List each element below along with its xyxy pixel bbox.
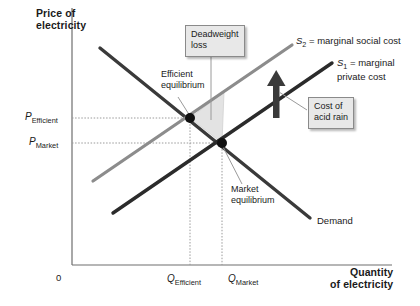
s1-text: = marginal <box>347 57 394 68</box>
leader-line-market-equilibrium <box>222 145 242 184</box>
price-tick-market-sub: Market <box>36 141 59 150</box>
economics-diagram-externality: Price of electricity Quantity of electri… <box>0 0 420 306</box>
callout-deadweight-loss: Deadweight loss <box>185 25 245 57</box>
market-equilibrium-line2: equilibrium <box>231 195 275 205</box>
callout-deadweight-loss-line2: loss <box>191 40 207 50</box>
s2-text: = marginal social cost <box>306 35 400 46</box>
origin-label: 0 <box>56 272 61 283</box>
quantity-tick-efficient-symbol: Q <box>167 273 175 284</box>
efficient-equilibrium-label: Efficient equilibrium <box>161 69 205 90</box>
price-tick-market: PMarket <box>29 136 58 151</box>
efficient-equilibrium-line1: Efficient <box>161 69 193 79</box>
market-equilibrium-line1: Market <box>231 184 259 194</box>
demand-curve-label: Demand <box>317 215 353 226</box>
quantity-tick-market-symbol: Q <box>228 273 236 284</box>
s2-curve-label: S2 = marginal social cost <box>296 35 401 49</box>
price-tick-efficient-sub: Efficient <box>32 116 58 125</box>
x-axis-title: Quantity of electricity <box>330 266 393 291</box>
leader-line-cost-of-acid-rain <box>279 92 307 110</box>
demand-curve <box>100 48 310 218</box>
callout-deadweight-loss-line1: Deadweight <box>191 29 239 39</box>
s1-curve-label: S1 = marginal private cost <box>337 57 395 83</box>
y-axis-title-line1: Price of <box>36 7 75 19</box>
x-axis-title-line1: Quantity <box>350 266 393 278</box>
price-tick-efficient: PEfficient <box>25 111 58 126</box>
quantity-tick-efficient-sub: Efficient <box>175 278 201 287</box>
efficient-equilibrium-line2: equilibrium <box>161 80 205 90</box>
efficient-equilibrium-point <box>185 113 195 123</box>
y-axis-title-line2: electricity <box>36 19 86 31</box>
callout-cost-of-acid-rain-line2: acid rain <box>314 112 348 122</box>
quantity-tick-market-sub: Market <box>236 278 259 287</box>
price-tick-efficient-symbol: P <box>25 111 32 122</box>
x-axis-title-line2: of electricity <box>330 278 393 290</box>
market-equilibrium-label: Market equilibrium <box>231 184 275 205</box>
market-equilibrium-point <box>217 138 227 148</box>
callout-cost-of-acid-rain-line1: Cost of <box>314 101 343 111</box>
callout-cost-of-acid-rain: Cost of acid rain <box>308 97 354 129</box>
quantity-tick-efficient: QEfficient <box>167 273 201 288</box>
s1-text-line2: private cost <box>337 71 386 82</box>
price-tick-market-symbol: P <box>29 136 36 147</box>
quantity-tick-market: QMarket <box>228 273 258 288</box>
y-axis-title: Price of electricity <box>36 7 86 32</box>
